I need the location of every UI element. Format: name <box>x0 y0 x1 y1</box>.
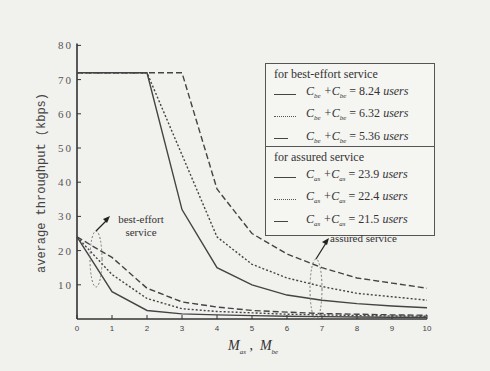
legend-title: for best-effort service <box>274 66 426 83</box>
annotation-line: service <box>106 226 176 239</box>
y-tick-label: 10 <box>58 279 73 291</box>
x-tick-label: 8 <box>355 324 360 333</box>
x-tick-label: 4 <box>215 324 220 333</box>
legend-swatch-solid <box>274 94 296 95</box>
x-tick-label: 2 <box>145 324 150 333</box>
legend-swatch-solid <box>274 177 296 178</box>
legend-row: Cas +Cas = 22.4 users <box>274 188 426 210</box>
legend-best-effort: for best-effort service Cbe +Cbe = 8.24 … <box>265 63 435 153</box>
y-tick-label: 70 <box>58 74 73 86</box>
legend-swatch-dotted <box>274 199 296 200</box>
legend-expression: Cbe +Cbe = 8.24 users <box>306 83 408 105</box>
y-tick-label: 80 <box>58 39 73 51</box>
x-tick-label: 7 <box>320 324 325 333</box>
annotation-text: assured service <box>330 232 397 244</box>
x-tick-label: 9 <box>390 324 395 333</box>
legend-row: Cbe +Cbe = 6.32 users <box>274 105 426 127</box>
legend-swatch-dotted <box>274 116 296 117</box>
x-tick-label: 1 <box>110 324 115 333</box>
legend-swatch-dashed <box>274 221 288 222</box>
x-label-m2: M <box>260 338 272 353</box>
legend-expression: Cas +Cas = 21.5 users <box>306 211 408 233</box>
legend-row: Cbe +Cbe = 8.24 users <box>274 83 426 105</box>
legend-row: Cas +Cas = 23.9 users <box>274 166 426 188</box>
y-tick-label: 50 <box>58 142 73 154</box>
x-tick-label: 5 <box>250 324 255 333</box>
legend-expression: Cas +Cas = 22.4 users <box>306 188 408 210</box>
y-tick-label: 40 <box>58 176 73 188</box>
arrow-icon <box>322 238 329 245</box>
y-tick-label: 30 <box>58 210 73 222</box>
legend-title: for assured service <box>274 149 426 166</box>
x-tick-label: 0 <box>75 324 80 333</box>
y-axis-label: average throughput (kbps) <box>35 83 49 283</box>
x-axis-label: Mas , Mbe <box>228 338 278 356</box>
annotation-line: best-effort <box>106 213 176 226</box>
legend-swatch-dashed <box>274 138 288 139</box>
legend-assured: for assured service Cas +Cas = 23.9 user… <box>265 146 435 236</box>
legend-row: Cas +Cas = 21.5 users <box>274 211 426 233</box>
legend-expression: Cas +Cas = 23.9 users <box>306 166 408 188</box>
x-tick-label: 3 <box>180 324 185 333</box>
annotation-assured: assured service <box>330 232 420 245</box>
x-tick-label: 10 <box>423 324 432 333</box>
y-tick-label: 20 <box>58 245 73 257</box>
y-tick-label: 60 <box>58 108 73 120</box>
annotation-best-effort: best-effort service <box>106 213 176 239</box>
x-tick-label: 6 <box>285 324 290 333</box>
x-label-sub2: be <box>272 348 279 356</box>
x-label-m1: M <box>228 338 240 353</box>
x-label-sep: , <box>246 338 260 353</box>
series-line <box>77 237 427 315</box>
ellipse-assured <box>310 259 322 319</box>
legend-expression: Cbe +Cbe = 6.32 users <box>306 105 408 127</box>
